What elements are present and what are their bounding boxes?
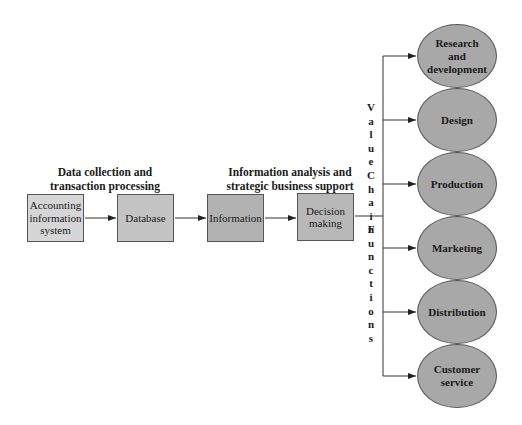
heading-data-collection: Data collection and transaction processi…: [40, 165, 170, 193]
box-database: Database: [117, 194, 174, 242]
ellipse-marketing: Marketing: [417, 216, 497, 280]
ellipse-customer-service: Customer service: [417, 344, 497, 408]
ellipse-distribution: Distribution: [417, 280, 497, 344]
heading-information-analysis: Information analysis and strategic busin…: [215, 165, 365, 193]
ellipse-research-and-development: Research and development: [417, 24, 497, 88]
ellipse-design: Design: [417, 88, 497, 152]
value-chain-functions-label-lower: Functions: [365, 223, 377, 345]
box-accounting-information-system: Accounting information system: [27, 194, 84, 242]
value-chain-diagram: Data collection and transaction processi…: [0, 0, 522, 425]
box-information: Information: [207, 194, 264, 242]
value-chain-functions-label: Value Chain: [365, 101, 377, 237]
box-decision-making: Decision making: [297, 193, 354, 241]
ellipse-production: Production: [417, 152, 497, 216]
